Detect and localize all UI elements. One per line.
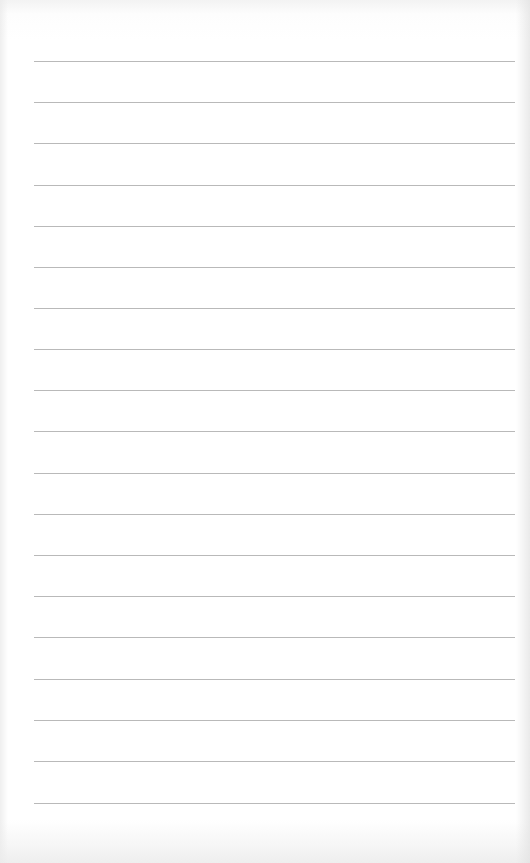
ruled-line xyxy=(34,226,515,227)
paper-left-shadow xyxy=(0,0,8,863)
ruled-line xyxy=(34,390,515,391)
ruled-line xyxy=(34,143,515,144)
ruled-line xyxy=(34,61,515,62)
paper-right-shadow xyxy=(516,0,530,863)
ruled-line xyxy=(34,720,515,721)
ruled-line xyxy=(34,308,515,309)
ruled-line xyxy=(34,102,515,103)
ruled-line xyxy=(34,349,515,350)
ruled-line xyxy=(34,761,515,762)
ruled-line xyxy=(34,555,515,556)
lined-paper-sheet xyxy=(0,0,530,863)
ruled-line xyxy=(34,637,515,638)
ruled-line xyxy=(34,267,515,268)
ruled-line xyxy=(34,803,515,804)
ruled-line xyxy=(34,185,515,186)
ruled-line xyxy=(34,473,515,474)
ruled-line xyxy=(34,431,515,432)
ruled-line xyxy=(34,679,515,680)
ruled-line xyxy=(34,514,515,515)
ruled-line xyxy=(34,596,515,597)
